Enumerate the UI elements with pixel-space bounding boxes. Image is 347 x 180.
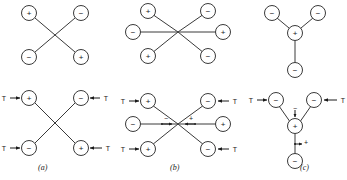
force-label: T bbox=[233, 146, 238, 153]
node-upper-right: − bbox=[201, 94, 216, 109]
node-left: − bbox=[126, 25, 141, 40]
node-sign: + bbox=[293, 29, 298, 38]
panel-y-junction-charge-unloaded: − − + − bbox=[265, 6, 326, 78]
node-upper-left: − bbox=[265, 6, 280, 21]
node-upper-left: + bbox=[141, 4, 156, 19]
force-arrow-upper-right: T bbox=[324, 97, 346, 104]
node-bottom-right: + bbox=[74, 141, 89, 156]
node-sign: + bbox=[79, 53, 84, 62]
panel-cross-four-charge-loaded: + − − + T T T bbox=[2, 91, 111, 156]
node-lower-left: + bbox=[141, 49, 156, 64]
node-top-right: − bbox=[74, 6, 89, 21]
node-upper-right: − bbox=[311, 6, 326, 21]
force-label: T bbox=[121, 146, 126, 153]
inner-sign-center-left: − bbox=[161, 115, 172, 126]
node-sign: − bbox=[27, 144, 32, 153]
node-sign: − bbox=[206, 97, 211, 106]
node-top-right: − bbox=[74, 91, 89, 106]
node-sign: − bbox=[293, 157, 298, 166]
force-label: T bbox=[104, 95, 109, 102]
node-bottom-left: − bbox=[22, 50, 37, 65]
caption-a: (a) bbox=[38, 163, 47, 172]
node-sign: − bbox=[312, 96, 317, 105]
inner-sign-above-center: − bbox=[293, 105, 297, 118]
node-left: − bbox=[126, 117, 141, 132]
force-label: T bbox=[2, 95, 7, 102]
node-sign: + bbox=[146, 145, 151, 154]
node-sign: + bbox=[221, 28, 226, 37]
node-sign: − bbox=[79, 9, 84, 18]
inner-sign: + bbox=[304, 139, 308, 146]
caption-b: (b) bbox=[170, 163, 179, 172]
node-sign: − bbox=[274, 96, 279, 105]
node-sign: − bbox=[131, 120, 136, 129]
node-sign: − bbox=[206, 145, 211, 154]
force-arrow-bottom-left: T bbox=[2, 145, 20, 152]
inner-sign: − bbox=[293, 105, 297, 112]
node-bottom-left: − bbox=[22, 141, 37, 156]
force-label: T bbox=[106, 145, 111, 152]
force-arrow-top-right: T bbox=[90, 95, 109, 102]
panel-cross-four-charge-unloaded: + − − + bbox=[22, 6, 89, 65]
node-sign: − bbox=[270, 9, 275, 18]
node-sign: + bbox=[146, 52, 151, 61]
caption-c: (c) bbox=[300, 163, 309, 172]
force-arrow-lower-right: T bbox=[218, 146, 238, 153]
inner-sign: − bbox=[164, 115, 168, 122]
node-upper-left: − bbox=[269, 93, 284, 108]
force-label: T bbox=[121, 98, 126, 105]
node-sign: − bbox=[293, 66, 298, 75]
node-sign: + bbox=[293, 122, 298, 131]
panel-six-spoke-charge-loaded: + − − + + − T bbox=[121, 94, 238, 157]
node-lower-right: − bbox=[201, 142, 216, 157]
force-arrow-upper-left: T bbox=[121, 98, 139, 105]
node-right: + bbox=[216, 117, 231, 132]
force-arrow-top-left: T bbox=[2, 95, 20, 102]
node-sign: − bbox=[206, 7, 211, 16]
force-arrow-lower-left: T bbox=[121, 146, 139, 153]
node-upper-right: − bbox=[307, 93, 322, 108]
node-upper-left: + bbox=[141, 94, 156, 109]
node-center: + bbox=[288, 119, 303, 134]
node-sign: + bbox=[27, 94, 32, 103]
node-lower-left: + bbox=[141, 142, 156, 157]
node-sign: − bbox=[27, 53, 32, 62]
node-lower-right: − bbox=[201, 49, 216, 64]
inner-sign: + bbox=[189, 115, 193, 122]
panel-y-junction-charge-loaded: − − + − T T − bbox=[249, 93, 346, 169]
force-label: T bbox=[233, 98, 238, 105]
node-sign: − bbox=[79, 94, 84, 103]
force-arrow-upper-left: T bbox=[249, 97, 267, 104]
node-center: + bbox=[288, 26, 303, 41]
node-right: + bbox=[216, 25, 231, 40]
node-sign: − bbox=[316, 9, 321, 18]
node-sign: + bbox=[146, 7, 151, 16]
node-bottom-right: + bbox=[74, 50, 89, 65]
node-sign: + bbox=[79, 144, 84, 153]
node-sign: + bbox=[146, 97, 151, 106]
force-label: T bbox=[2, 145, 7, 152]
node-upper-right: − bbox=[201, 4, 216, 19]
node-top-left: + bbox=[22, 6, 37, 21]
panel-six-spoke-charge-unloaded: + − − + + − bbox=[126, 4, 231, 64]
figure-sheet: + − − + + bbox=[0, 0, 347, 180]
inner-sign-center-right: + bbox=[185, 115, 196, 126]
force-label: T bbox=[249, 97, 254, 104]
node-bottom: − bbox=[288, 63, 303, 78]
node-sign: − bbox=[206, 52, 211, 61]
node-sign: + bbox=[27, 9, 32, 18]
force-arrow-upper-right: T bbox=[218, 98, 238, 105]
node-sign: + bbox=[221, 120, 226, 129]
node-top-left: + bbox=[22, 91, 37, 106]
charge-diagram-svg: + − − + + bbox=[0, 0, 347, 180]
force-label: T bbox=[341, 97, 346, 104]
node-sign: − bbox=[131, 28, 136, 37]
inner-sign-below-center-stem: + bbox=[294, 139, 308, 146]
force-arrow-bottom-right: T bbox=[90, 145, 111, 152]
